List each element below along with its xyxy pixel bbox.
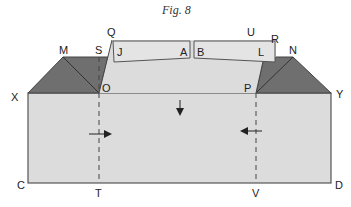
label-j: J xyxy=(117,46,123,58)
fig-8-diagram: Fig. 8 Q U R M S J A B L N X O P Y C T V… xyxy=(0,0,351,207)
label-b: B xyxy=(197,46,204,58)
label-r: R xyxy=(271,33,279,45)
label-t: T xyxy=(95,187,102,199)
label-y: Y xyxy=(336,88,344,100)
label-c: C xyxy=(17,179,25,191)
label-m: M xyxy=(59,44,68,56)
bar-ja xyxy=(113,41,190,62)
label-o: O xyxy=(102,82,111,94)
label-p: P xyxy=(244,82,251,94)
label-x: X xyxy=(11,91,19,103)
label-u: U xyxy=(247,26,255,38)
label-n: N xyxy=(289,44,297,56)
label-d: D xyxy=(335,179,343,191)
label-a: A xyxy=(180,46,188,58)
label-l: L xyxy=(258,46,264,58)
label-s: S xyxy=(95,44,102,56)
figure-title: Fig. 8 xyxy=(161,3,191,17)
label-v: V xyxy=(252,187,260,199)
label-q: Q xyxy=(107,26,116,38)
right-dark-wedge xyxy=(256,57,331,93)
